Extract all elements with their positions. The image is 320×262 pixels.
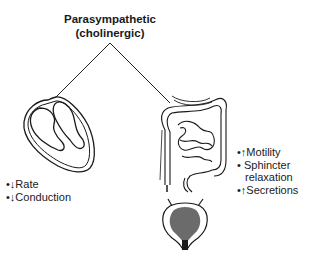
bladder-icon	[163, 199, 208, 250]
intestine-effect-sphincter-cont: relaxation	[237, 171, 298, 184]
intestine-effect-secretions: •↑Secretions	[237, 184, 298, 197]
heart-effects-list: •↓Rate •↓Conduction	[6, 178, 71, 203]
connector-lines	[56, 43, 170, 103]
intestine-effect-motility: •↑Motility	[237, 146, 298, 159]
diagram-artwork	[0, 0, 320, 262]
intestine-effects-list: •↑Motility • Sphincter relaxation •↑Secr…	[237, 146, 298, 196]
intestine-icon	[160, 96, 226, 192]
connector-to-heart	[56, 43, 110, 97]
heart-effect-rate: •↓Rate	[6, 178, 71, 191]
heart-effect-conduction: •↓Conduction	[6, 191, 71, 204]
heart-icon	[24, 97, 95, 172]
intestine-effect-sphincter: • Sphincter	[237, 159, 298, 172]
connector-to-intestine	[110, 43, 170, 103]
